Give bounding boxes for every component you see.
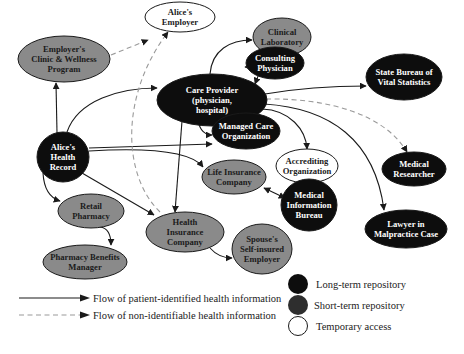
long-term-circle-icon — [288, 274, 308, 294]
edge-alices-health-record-to-employers-clinic — [56, 83, 57, 133]
legend-solid-edge: Flow of patient-identified health inform… — [19, 293, 282, 304]
edge-alices-health-record-to-managed-care — [89, 144, 212, 148]
node-label: Record — [50, 162, 77, 172]
node-label: Care Provider — [186, 85, 239, 95]
node-label: Life Insurance — [207, 167, 261, 177]
edge-health-insurance-to-alices-employer — [132, 32, 168, 212]
node-state-bureau: State Bureau ofVital Statistics — [366, 54, 442, 100]
edge-alices-health-record-to-life-insurance — [89, 150, 203, 167]
node-medical-researcher: MedicalResearcher — [382, 152, 446, 186]
node-health-insurance: HealthInsuranceCompany — [146, 212, 224, 252]
edge-care-provider-to-clinical-laboratory — [210, 40, 252, 74]
node-label: hospital) — [196, 105, 228, 115]
node-label: Malpractice Case — [374, 229, 438, 239]
legend: Flow of patient-identified health inform… — [19, 274, 407, 336]
node-label: Bureau — [295, 210, 322, 220]
legend-short-term: Short-term repository — [288, 295, 405, 315]
information-flow-diagram: Employer'sClinic & WellnessProgramAlice'… — [0, 0, 464, 354]
node-label: Vital Statistics — [378, 77, 432, 87]
node-label: Accrediting — [286, 156, 330, 166]
node-label: Pharmacy — [72, 211, 110, 221]
node-label: Organization — [283, 166, 332, 176]
node-label: Consulting — [255, 53, 296, 63]
node-label: Employer — [162, 17, 198, 27]
temporary-circle-icon — [289, 317, 308, 336]
node-label: Clinical — [268, 27, 297, 37]
node-label: Organization — [222, 131, 271, 141]
node-label: Alice's — [51, 142, 76, 152]
edge-care-provider-to-state-bureau — [265, 86, 366, 94]
node-retail-pharmacy: RetailPharmacy — [58, 194, 124, 228]
node-spouses-employer: Spouse'sSelf-insuredEmployer — [232, 224, 292, 274]
legend-temporary: Temporary access — [289, 317, 392, 336]
node-label: Information — [287, 200, 332, 210]
legend-solid-label: Flow of patient-identified health inform… — [93, 293, 282, 304]
legend-long-term-label: Long-term repository — [316, 279, 407, 290]
node-employers-clinic: Employer'sClinic & WellnessProgram — [18, 36, 110, 82]
node-label: Spouse's — [246, 234, 278, 244]
node-label: Laboratory — [261, 37, 304, 47]
edge-health-insurance-to-spouses-employer — [210, 248, 232, 258]
node-label: Company — [216, 177, 253, 187]
node-medical-info-bureau: MedicalInformationBureau — [281, 179, 337, 231]
node-label: Insurance — [167, 227, 204, 237]
node-label: Program — [48, 64, 82, 74]
node-label: Manager — [68, 262, 102, 272]
node-label: Health — [173, 217, 198, 227]
node-accrediting-org: AccreditingOrganization — [276, 149, 338, 183]
edge-life-insurance-to-medical-info-bureau — [264, 188, 285, 198]
node-lawyer: Lawyer inMalpractice Case — [365, 210, 447, 248]
short-term-circle-icon — [288, 295, 308, 315]
legend-short-term-label: Short-term repository — [314, 300, 405, 311]
node-label: Alice's — [168, 7, 193, 17]
node-label: Health — [51, 152, 76, 162]
node-label: Employer's — [43, 44, 86, 54]
edge-employers-clinic-to-alices-employer — [111, 40, 148, 55]
node-label: Employer — [244, 254, 280, 264]
edge-care-provider-to-health-insurance — [175, 121, 182, 212]
node-label: State Bureau of — [375, 67, 432, 77]
arrowhead-icon — [80, 312, 90, 319]
node-label: Retail — [80, 201, 103, 211]
node-label: Medical — [294, 190, 324, 200]
node-label: Physician — [257, 63, 293, 73]
legend-dashed-label: Flow of non-identifiable health informat… — [93, 310, 277, 321]
legend-long-term: Long-term repository — [288, 274, 407, 294]
node-label: Researcher — [393, 169, 435, 179]
node-label: Self-insured — [240, 244, 284, 254]
node-managed-care: Managed CareOrganization — [212, 113, 280, 149]
edge-alices-health-record-to-care-provider — [67, 88, 157, 132]
node-label: (physician, — [192, 95, 232, 105]
arrowhead-icon — [80, 295, 90, 302]
edge-retail-pharmacy-to-pharmacy-benefits — [100, 227, 111, 245]
legend-dashed-edge: Flow of non-identifiable health informat… — [19, 310, 277, 321]
node-label: Medical — [399, 159, 429, 169]
node-label: Company — [167, 237, 204, 247]
node-label: Pharmacy Benefits — [50, 252, 120, 262]
node-label: Managed Care — [219, 121, 274, 131]
node-label: Clinic & Wellness — [31, 54, 97, 64]
node-alices-employer: Alice'sEmployer — [145, 2, 215, 32]
node-alices-health-record: Alice'sHealthRecord — [37, 132, 89, 182]
node-pharmacy-benefits: Pharmacy BenefitsManager — [43, 245, 127, 279]
node-life-insurance: Life InsuranceCompany — [202, 160, 266, 194]
legend-temporary-label: Temporary access — [316, 321, 391, 332]
node-label: Lawyer in — [387, 219, 425, 229]
node-consulting-physician: ConsultingPhysician — [246, 47, 304, 79]
